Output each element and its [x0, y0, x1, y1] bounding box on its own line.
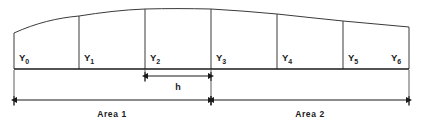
spacing-dimension: h: [145, 72, 211, 92]
spacing-label: h: [175, 82, 181, 92]
ordinate-label-y1: Y1: [84, 52, 94, 65]
area1-dimension: Area 1: [14, 96, 211, 119]
integration-area-diagram: Y0 Y1 Y2 Y3 Y4 Y5 Y6: [0, 0, 422, 123]
diagram-canvas: Y0 Y1 Y2 Y3 Y4 Y5 Y6: [0, 0, 422, 123]
ordinate-label-y0: Y0: [19, 52, 29, 65]
area1-label: Area 1: [97, 109, 127, 119]
ordinate-label-y5: Y5: [348, 52, 358, 65]
area2-dimension: Area 2: [211, 96, 409, 119]
ordinate-label-y6: Y6: [391, 52, 401, 65]
ordinate-label-y2: Y2: [150, 52, 160, 65]
ordinate-label-y3: Y3: [216, 52, 226, 65]
area2-label: Area 2: [295, 109, 325, 119]
ordinate-labels: Y0 Y1 Y2 Y3 Y4 Y5 Y6: [19, 52, 401, 65]
ordinate-label-y4: Y4: [282, 52, 292, 65]
